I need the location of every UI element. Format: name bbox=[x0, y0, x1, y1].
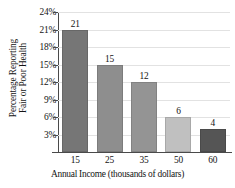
x-axis-tick-labels: 1525355060 bbox=[58, 155, 230, 168]
x-axis-tick-label: 15 bbox=[58, 155, 92, 165]
bar-value-label: 12 bbox=[131, 71, 157, 81]
bar-group: 15 bbox=[97, 12, 123, 152]
plot-area: 21151264 bbox=[58, 12, 230, 152]
x-axis-tick-label: 50 bbox=[161, 155, 195, 165]
bar-value-label: 21 bbox=[62, 19, 88, 29]
x-axis-line bbox=[52, 152, 232, 153]
bar-value-label: 15 bbox=[97, 54, 123, 64]
bar-value-label: 4 bbox=[200, 118, 226, 128]
x-axis-title: Annual Income (thousands of dollars) bbox=[0, 169, 235, 179]
bar-group: 4 bbox=[200, 12, 226, 152]
y-axis-title-line-1: Percentage Reporting bbox=[8, 39, 18, 117]
x-axis-tick-label: 25 bbox=[92, 155, 126, 165]
bar bbox=[97, 65, 123, 153]
x-axis-tick-label: 60 bbox=[196, 155, 230, 165]
bar-series: 21151264 bbox=[58, 12, 230, 152]
bar bbox=[131, 82, 157, 152]
x-axis-tick-label: 35 bbox=[127, 155, 161, 165]
bar-group: 6 bbox=[165, 12, 191, 152]
bar-value-label: 6 bbox=[165, 106, 191, 116]
bar bbox=[62, 30, 88, 153]
bar-chart: Percentage Reporting Fair or Poor Health… bbox=[0, 0, 235, 188]
bar-group: 12 bbox=[131, 12, 157, 152]
bar-group: 21 bbox=[62, 12, 88, 152]
bar bbox=[165, 117, 191, 152]
bar bbox=[200, 129, 226, 152]
